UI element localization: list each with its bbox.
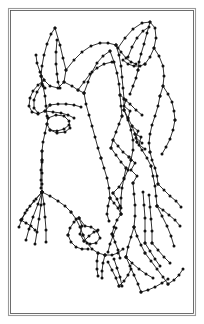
vertex-dot bbox=[94, 136, 97, 139]
vertex-dot bbox=[168, 214, 171, 217]
vertex-dot bbox=[57, 200, 60, 203]
vertex-dot bbox=[63, 128, 66, 131]
vertex-dot bbox=[173, 110, 176, 113]
vertex-dot bbox=[57, 81, 60, 84]
vertex-dot bbox=[154, 167, 157, 170]
vertex-dot bbox=[39, 71, 42, 74]
vertex-dot bbox=[99, 237, 102, 240]
vertex-dot bbox=[56, 130, 59, 133]
vertex-dot bbox=[77, 89, 80, 92]
vertex-dot bbox=[29, 205, 32, 208]
vertex-dot bbox=[36, 62, 39, 65]
vertex-dot bbox=[89, 243, 92, 246]
vertex-dot bbox=[125, 167, 128, 170]
vertex-dot bbox=[120, 65, 123, 68]
vertex-dot bbox=[101, 277, 104, 280]
vertex-dot bbox=[146, 32, 149, 35]
vertex-dot bbox=[171, 101, 174, 104]
vertex-dot bbox=[97, 147, 100, 150]
vertex-dot bbox=[167, 93, 170, 96]
vertex-dot bbox=[150, 218, 153, 221]
vertex-dot bbox=[44, 110, 47, 113]
vertex-dot bbox=[137, 130, 140, 133]
vertex-dot bbox=[42, 85, 45, 88]
vertex-dot bbox=[124, 37, 127, 40]
vertex-dot bbox=[157, 183, 160, 186]
vertex-dot bbox=[110, 147, 113, 150]
vertex-dot bbox=[129, 93, 132, 96]
vertex-dot bbox=[91, 125, 94, 128]
vertex-dot bbox=[56, 73, 59, 76]
vertex-dot bbox=[122, 248, 125, 251]
vertex-dot bbox=[57, 103, 60, 106]
vertex-dot bbox=[64, 131, 67, 134]
vertex-dot bbox=[41, 161, 44, 164]
vertex-dot bbox=[166, 225, 169, 228]
vertex-dot bbox=[134, 133, 137, 136]
vertex-dot bbox=[158, 55, 161, 58]
vertex-dot bbox=[106, 177, 109, 180]
vertex-dot bbox=[87, 81, 90, 84]
vertex-dot bbox=[96, 67, 99, 70]
vertex-dot bbox=[148, 142, 151, 145]
vertex-dot bbox=[112, 192, 115, 195]
vertex-dot bbox=[29, 97, 32, 100]
vertex-dot bbox=[131, 125, 134, 128]
vertex-dot bbox=[63, 81, 66, 84]
vertex-dot bbox=[120, 161, 123, 164]
vertex-dot bbox=[169, 138, 172, 141]
vertex-dot bbox=[165, 146, 168, 149]
vertex-dot bbox=[120, 197, 123, 200]
vertex-dot bbox=[96, 62, 99, 65]
vertex-dot bbox=[121, 76, 124, 79]
vertex-dot bbox=[117, 47, 120, 50]
vertex-dot bbox=[156, 175, 159, 178]
vertex-dot bbox=[151, 124, 154, 127]
vertex-dot bbox=[96, 260, 99, 263]
vertex-dot bbox=[170, 235, 173, 238]
vertex-dot bbox=[31, 111, 34, 114]
vertex-dot bbox=[97, 275, 100, 278]
vertex-dot bbox=[109, 243, 112, 246]
vertex-dot bbox=[109, 197, 112, 200]
vertex-dot bbox=[132, 28, 135, 31]
vertex-dot bbox=[114, 241, 117, 244]
vertex-dot bbox=[127, 63, 130, 66]
vertex-dot bbox=[145, 273, 148, 276]
vertex-dot bbox=[167, 283, 170, 286]
vertex-dot bbox=[156, 205, 159, 208]
vertex-dot bbox=[153, 47, 156, 50]
vertex-dot bbox=[142, 191, 145, 194]
vertex-dot bbox=[152, 175, 155, 178]
vertex-dot bbox=[64, 205, 67, 208]
vertex-dot bbox=[125, 99, 128, 102]
vertex-dot bbox=[106, 213, 109, 216]
vertex-dot bbox=[71, 85, 74, 88]
vertex-dot bbox=[67, 114, 70, 117]
vertex-dot bbox=[97, 229, 100, 232]
vertex-dot bbox=[154, 286, 157, 289]
vertex-dot bbox=[154, 115, 157, 118]
vertex-dot bbox=[119, 94, 122, 97]
vertex-dot bbox=[44, 216, 47, 219]
vertex-dot bbox=[28, 105, 31, 108]
vertex-dot bbox=[68, 120, 71, 123]
vertex-dot bbox=[42, 141, 45, 144]
vertex-dot bbox=[147, 289, 150, 292]
vertex-dot bbox=[141, 114, 144, 117]
vertex-dot bbox=[63, 115, 66, 118]
vertex-dot bbox=[156, 268, 159, 271]
vertex-dot bbox=[45, 229, 48, 232]
vertex-dot bbox=[125, 57, 128, 60]
vertex-dot bbox=[137, 69, 140, 72]
vertex-dot bbox=[138, 268, 141, 271]
vertex-dot bbox=[116, 72, 119, 75]
vertex-dot bbox=[67, 234, 70, 237]
vertex-dot bbox=[136, 37, 139, 40]
vertex-dot bbox=[149, 206, 152, 209]
vertex-dot bbox=[115, 277, 118, 280]
vertex-dot bbox=[144, 242, 147, 245]
vertex-dot bbox=[70, 211, 73, 214]
vertex-dot bbox=[69, 227, 72, 230]
vertex-dot bbox=[131, 262, 134, 265]
